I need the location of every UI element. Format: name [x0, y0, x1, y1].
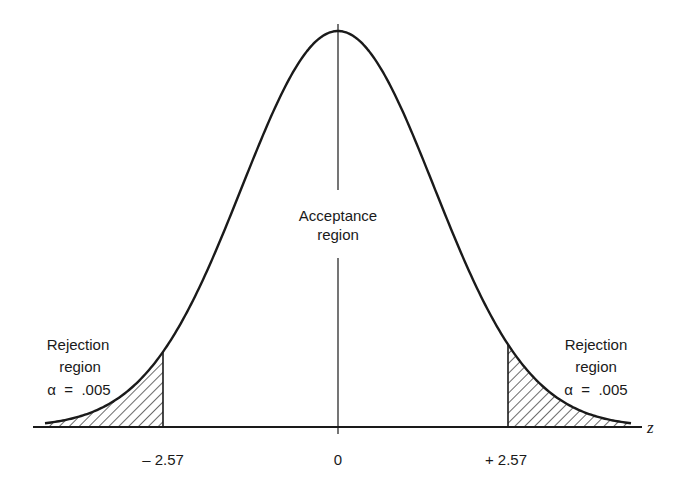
right-rejection-label-line1: Rejection [565, 336, 628, 353]
acceptance-region-label-line1: Acceptance [299, 207, 377, 224]
left-critical-value-label: – 2.57 [142, 451, 184, 468]
normal-curve-figure: z Acceptance region Rejection region α =… [0, 0, 689, 485]
z-axis-label: z [646, 418, 654, 437]
mean-label: 0 [334, 451, 342, 468]
acceptance-region-label-line2: region [317, 226, 359, 243]
left-rejection-label-line1: Rejection [47, 336, 110, 353]
right-rejection-label-line2: region [575, 358, 617, 375]
right-alpha-label: α = .005 [564, 381, 627, 398]
right-critical-value-label: + 2.57 [485, 451, 527, 468]
left-alpha-label: α = .005 [47, 381, 110, 398]
left-rejection-label-line2: region [59, 358, 101, 375]
